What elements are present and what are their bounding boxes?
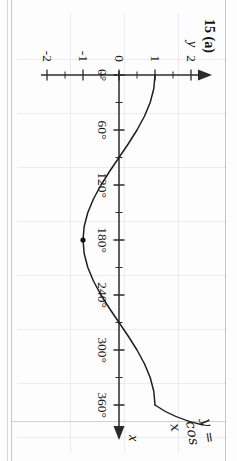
x-tick-label: 240° (94, 282, 110, 308)
x-tick-label: 180° (94, 227, 110, 253)
y-tick-label: -2 (39, 50, 55, 61)
figure-wrapper: 0°60°120°180°240°300°360° 210-1-2 15 (a)… (0, 0, 237, 461)
y-tick-label: -1 (75, 50, 91, 61)
curve-equation-annotation: y = cos x (167, 417, 219, 456)
axes-layer (41, 69, 212, 440)
marker-layer (80, 237, 85, 242)
x-tick-label: 60° (94, 120, 110, 139)
x-axis-title: x (125, 435, 141, 441)
x-tick-label: 0° (94, 68, 110, 80)
x-tick-label: 360° (94, 392, 110, 418)
scanned-page: 0°60°120°180°240°300°360° 210-1-2 15 (a)… (0, 0, 237, 461)
graph-figure: 0°60°120°180°240°300°360° 210-1-2 15 (a)… (17, 13, 227, 453)
y-axis-arrowhead (198, 69, 212, 80)
y-tick-label: 2 (183, 55, 199, 62)
data-point-marker (80, 237, 85, 242)
y-tick-label: 1 (147, 55, 163, 62)
y-axis-title: y (184, 41, 200, 47)
x-tick-label: 300° (94, 337, 110, 363)
x-axis-arrowhead (113, 426, 124, 440)
question-number: 15 (a) (201, 19, 217, 53)
cosine-plot (17, 13, 227, 453)
x-tick-label: 120° (94, 172, 110, 198)
y-tick-label: 0 (111, 55, 127, 62)
